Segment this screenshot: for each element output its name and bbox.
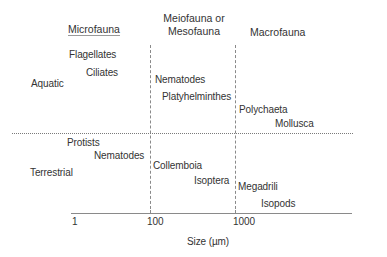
x-axis-line [71, 213, 352, 214]
x-axis-tick-1000 [235, 210, 236, 213]
organism-nematodes-terrestrial: Nematodes [94, 150, 144, 162]
x-axis-tick-100 [150, 210, 151, 213]
organism-polychaeta: Polychaeta [239, 104, 287, 116]
organism-protists: Protists [67, 137, 100, 149]
row-label-aquatic: Aquatic [31, 78, 64, 90]
organism-megadrili: Megadrili [238, 181, 278, 193]
organism-ciliates: Ciliates [86, 67, 118, 79]
boundary-line-1000um [235, 45, 236, 214]
organism-platyhelminthes: Platyhelminthes [162, 91, 231, 103]
column-header-meiofauna: Meiofauna or Mesofauna [160, 12, 228, 38]
column-header-meiofauna-line2: Mesofauna [160, 25, 228, 38]
habitat-separator-line [12, 133, 353, 134]
x-axis-title: Size (µm) [187, 236, 229, 248]
row-label-terrestrial: Terrestrial [30, 167, 73, 179]
boundary-line-100um [150, 45, 151, 214]
organism-collemboia: Collemboia [153, 160, 202, 172]
organism-isopods: Isopods [261, 198, 295, 210]
organism-nematodes-aquatic: Nematodes [155, 74, 205, 86]
column-header-microfauna: Microfauna [68, 23, 120, 36]
x-axis-tick-label-1000: 1000 [233, 216, 255, 228]
x-axis-tick-label-1: 1 [72, 216, 77, 228]
x-axis-tick-label-100: 100 [147, 216, 163, 228]
organism-isoptera: Isoptera [194, 175, 229, 187]
organism-mollusca: Mollusca [275, 118, 314, 130]
organism-flagellates: Flagellates [69, 49, 116, 61]
column-header-macrofauna: Macrofauna [250, 26, 305, 39]
column-header-meiofauna-line1: Meiofauna or [160, 12, 228, 25]
